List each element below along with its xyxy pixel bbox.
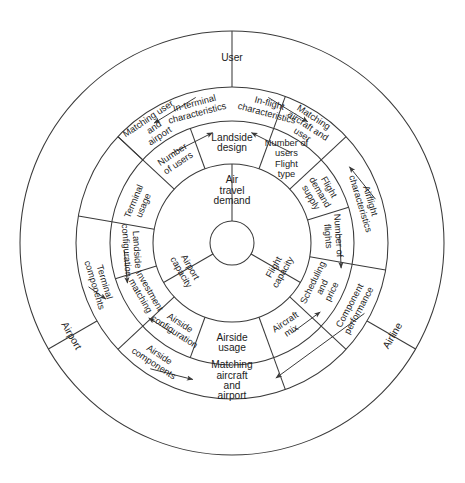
sector-airside-usage: Airsideusage — [216, 331, 247, 352]
diagram-canvas: AirtraveldemandFlightcapacityAirportcapa… — [0, 0, 465, 483]
ring-circle-2 — [110, 121, 354, 365]
sector-number-of-users: Numberof users — [156, 141, 195, 177]
sector-label-landside-design: Landside — [211, 131, 253, 142]
sector-airside-components: Airsidecomponents — [130, 337, 184, 382]
sector-scheduling-and-price: Schedulingandprice — [298, 260, 346, 315]
sector-label-air-travel-demand: demand — [214, 195, 251, 206]
sector-label-landside-design: design — [217, 142, 247, 153]
sector-label-matching-aircraft-and-airport: and — [224, 380, 241, 391]
sector-number-of-flights: Number offlights — [322, 214, 345, 259]
sector-terminal-usage: Terminalusage — [122, 183, 155, 223]
sector-user: User — [221, 52, 243, 63]
sector-label-number-of-users-flight-type: Flight — [275, 159, 298, 169]
sector-landside-design: Landsidedesign — [211, 131, 253, 152]
sector-component-performance: Componentperformance — [333, 280, 376, 336]
sector-label-number-of-users-flight-type: users — [275, 148, 298, 158]
ring3-divider-8 — [118, 137, 143, 160]
sector-label-airside-usage: Airside — [216, 331, 247, 342]
sector-airline: Airline — [381, 320, 405, 350]
ring2-divider-11 — [112, 222, 154, 229]
sector-label-matching-aircraft-and-airport: airport — [218, 390, 247, 401]
sector-label-matching-aircraft-and-airport: aircraft — [216, 369, 247, 380]
sector-label-user: User — [221, 52, 243, 63]
ring2-divider-7 — [259, 317, 274, 357]
sector-flight-capacity: Flightcapacity — [261, 250, 296, 290]
sector-label-air-travel-demand: Air — [226, 174, 239, 185]
sector-number-of-users-flight-type: Number ofusersFlighttype — [265, 138, 309, 179]
sector-air-travel-demand: Airtraveldemand — [214, 174, 251, 206]
sector-label-number-of-users-flight-type: type — [278, 169, 296, 179]
ring3-divider-6 — [118, 326, 143, 349]
circular-stakeholder-diagram: AirtraveldemandFlightcapacityAirportcapa… — [0, 0, 465, 483]
sector-flight-demand-supply: Flightdemandsupply — [298, 170, 341, 215]
sector-label-number-of-flights: flights — [322, 224, 334, 249]
ring-circle-0 — [210, 221, 254, 265]
ring3-divider-7 — [78, 216, 111, 222]
sector-matching-aircraft-and-airport: Matchingaircraftandairport — [211, 359, 253, 401]
sector-in-terminal-characteristics: In-terminalcharacteristics — [165, 91, 228, 126]
sector-label-airside-usage: usage — [218, 342, 246, 353]
sector-airport: Airport — [59, 320, 84, 352]
ring3-divider-3 — [352, 264, 385, 270]
sector-label-airport: Airport — [59, 320, 84, 352]
ring2-divider-1 — [190, 128, 205, 168]
sector-label-airline: Airline — [381, 320, 405, 350]
ring2-divider-2 — [259, 128, 274, 168]
sector-in-flight-characteristics: In-flightcharacteristics — [237, 91, 300, 126]
sector-label-matching-aircraft-and-airport: Matching — [211, 359, 253, 370]
ring3-divider-5 — [274, 358, 286, 390]
sector-label-air-travel-demand: travel — [220, 185, 245, 196]
sector-airport-capacity: Airportcapacity — [168, 250, 203, 290]
